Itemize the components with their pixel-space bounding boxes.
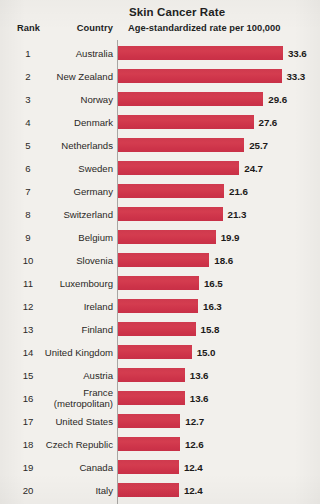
country-label: Switzerland	[0, 208, 113, 219]
bar-fill	[118, 276, 199, 290]
bar-value-label: 12.6	[185, 438, 204, 449]
bar-value-label: 33.3	[287, 70, 306, 81]
table-row: 1Australia33.6	[0, 41, 320, 64]
bar-fill	[118, 460, 179, 474]
table-row: 5Netherlands25.7	[0, 133, 320, 156]
bar	[118, 253, 209, 267]
bar-fill	[118, 437, 180, 451]
bar-fill	[118, 138, 244, 152]
bar	[118, 483, 179, 497]
bar	[118, 184, 224, 198]
bar-value-label: 27.6	[259, 116, 278, 127]
bar-value-label: 18.6	[214, 254, 233, 265]
bar-fill	[118, 299, 198, 313]
bar-value-label: 12.4	[184, 484, 203, 495]
bar	[118, 276, 199, 290]
bar-value-label: 13.6	[190, 369, 209, 380]
country-label: Luxembourg	[0, 277, 113, 288]
bar-value-label: 15.0	[197, 346, 216, 357]
country-label: Norway	[0, 93, 113, 104]
country-label: Netherlands	[0, 139, 113, 150]
country-label: Austria	[0, 369, 113, 380]
bar-fill	[118, 46, 283, 60]
bar	[118, 92, 263, 106]
bar-value-label: 12.7	[185, 415, 204, 426]
country-label: Australia	[0, 47, 113, 58]
chart-title: Skin Cancer Rate	[129, 6, 225, 18]
table-row: 11Luxembourg16.5	[0, 271, 320, 294]
bar-value-label: 24.7	[244, 162, 263, 173]
bar-fill	[118, 115, 254, 129]
bar-value-label: 21.6	[229, 185, 248, 196]
country-label: United States	[0, 415, 113, 426]
column-header-country: Country	[0, 23, 113, 33]
table-row: 9Belgium19.9	[0, 225, 320, 248]
bar-fill	[118, 345, 192, 359]
bar	[118, 322, 196, 336]
bar	[118, 460, 179, 474]
bar-fill	[118, 184, 224, 198]
bar-value-label: 19.9	[221, 231, 240, 242]
bar-fill	[118, 207, 223, 221]
table-row: 12Ireland16.3	[0, 294, 320, 317]
bar-value-label: 21.3	[228, 208, 247, 219]
table-row: 10Slovenia18.6	[0, 248, 320, 271]
table-row: 17United States12.7	[0, 409, 320, 432]
country-label: United Kingdom	[0, 346, 113, 357]
table-row: 8Switzerland21.3	[0, 202, 320, 225]
country-label-line1: France	[83, 387, 113, 398]
bar-value-label: 29.6	[268, 93, 287, 104]
bar-fill	[118, 161, 239, 175]
chart-subtitle: Age-standardized rate per 100,000	[128, 23, 281, 33]
bar	[118, 437, 180, 451]
skin-cancer-rate-chart: Skin Cancer Rate Age-standardized rate p…	[0, 0, 320, 504]
bar	[118, 46, 283, 60]
country-label: Ireland	[0, 300, 113, 311]
table-row: 2New Zealand33.3	[0, 64, 320, 87]
bar-value-label: 16.5	[204, 277, 223, 288]
bar	[118, 138, 244, 152]
bar	[118, 299, 198, 313]
country-label: Finland	[0, 323, 113, 334]
table-row: 6Sweden24.7	[0, 156, 320, 179]
bar	[118, 414, 180, 428]
table-row: 18Czech Republic12.6	[0, 432, 320, 455]
country-label: Czech Republic	[0, 438, 113, 449]
plot-area: 1Australia33.62New Zealand33.33Norway29.…	[0, 40, 320, 504]
country-label: Denmark	[0, 116, 113, 127]
bar	[118, 161, 239, 175]
bar-fill	[118, 69, 282, 83]
table-row: 16France(metropolitan)13.6	[0, 386, 320, 409]
table-row: 3Norway29.6	[0, 87, 320, 110]
table-row: 4Denmark27.6	[0, 110, 320, 133]
table-row: 13Finland15.8	[0, 317, 320, 340]
bar	[118, 391, 185, 405]
bar-value-label: 12.4	[184, 461, 203, 472]
bar-value-label: 25.7	[249, 139, 268, 150]
country-label: France(metropolitan)	[0, 387, 113, 409]
bar	[118, 115, 254, 129]
bar-value-label: 33.6	[288, 47, 307, 58]
country-label: Sweden	[0, 162, 113, 173]
bar	[118, 368, 185, 382]
table-row: 7Germany21.6	[0, 179, 320, 202]
bar-value-label: 16.3	[203, 300, 222, 311]
country-label: Canada	[0, 461, 113, 472]
bar-fill	[118, 322, 196, 336]
bar-fill	[118, 391, 185, 405]
bar-value-label: 15.8	[201, 323, 220, 334]
bar-fill	[118, 483, 179, 497]
country-label: Germany	[0, 185, 113, 196]
bar	[118, 69, 282, 83]
country-label-line2: (metropolitan)	[0, 398, 113, 409]
country-label: Belgium	[0, 231, 113, 242]
bar-fill	[118, 253, 209, 267]
table-row: 19Canada12.4	[0, 455, 320, 478]
bar-fill	[118, 368, 185, 382]
country-label: Italy	[0, 484, 113, 495]
bar	[118, 345, 192, 359]
bar-fill	[118, 414, 180, 428]
country-label: Slovenia	[0, 254, 113, 265]
bar-value-label: 13.6	[190, 392, 209, 403]
bar-fill	[118, 230, 216, 244]
